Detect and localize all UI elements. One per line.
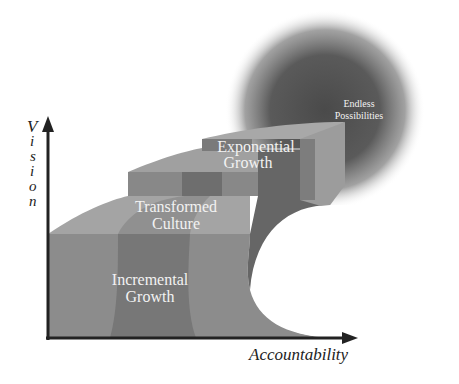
label-incremental-growth-1: Incremental <box>112 271 189 288</box>
y-label-letter: i <box>30 133 34 149</box>
label-transformed-culture-2: Culture <box>152 215 200 232</box>
y-label-letter: o <box>29 178 37 194</box>
y-label-letter: n <box>29 193 37 209</box>
label-transformed-culture-1: Transformed <box>135 198 217 215</box>
growth-staircase-diagram: V i s i o n Accountability Incremental G… <box>0 0 459 384</box>
y-label-letter: i <box>30 163 34 179</box>
x-axis-label: Accountability <box>248 345 349 364</box>
y-label-letter: s <box>30 148 36 164</box>
curved-cutout <box>254 205 420 338</box>
label-incremental-growth-2: Growth <box>126 288 175 305</box>
label-exponential-growth-2: Growth <box>224 154 273 171</box>
label-endless-possibilities-2: Possibilities <box>335 110 383 121</box>
band-dark-mid-front <box>182 172 222 196</box>
label-endless-possibilities-1: Endless <box>343 98 374 109</box>
y-axis-arrow-icon <box>42 116 54 132</box>
y-axis-label: V i s i o n <box>27 117 40 209</box>
